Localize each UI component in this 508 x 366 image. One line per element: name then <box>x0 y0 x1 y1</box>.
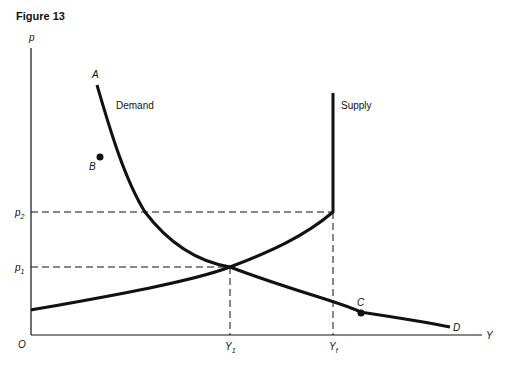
p-axis-label: p <box>28 32 35 43</box>
label-b: B <box>89 161 96 172</box>
yf-label: Yf <box>329 341 339 354</box>
p1-label: p1 <box>14 262 25 275</box>
supply-curve <box>31 93 333 310</box>
origin-label: O <box>18 339 26 350</box>
point-b <box>97 154 104 161</box>
chart: p Y O A B C D Demand Supply p2 p1 Y1 Yf <box>0 0 508 366</box>
label-d: D <box>453 322 460 333</box>
y-axis-label: Y <box>486 330 494 341</box>
demand-curve <box>97 85 450 327</box>
label-c: C <box>357 297 365 308</box>
y1-label: Y1 <box>225 341 236 354</box>
demand-label: Demand <box>116 100 154 111</box>
label-a: A <box>91 69 99 80</box>
p2-label: p2 <box>14 207 25 220</box>
supply-label: Supply <box>341 100 372 111</box>
point-c <box>358 310 365 317</box>
